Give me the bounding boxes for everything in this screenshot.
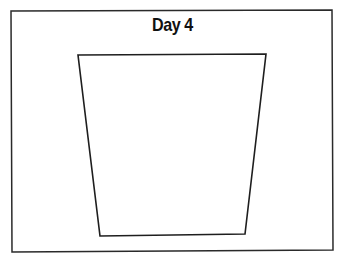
trapezoid-shape	[78, 54, 266, 236]
outer-frame	[11, 10, 333, 252]
diagram-title: Day 4	[26, 14, 319, 36]
diagram-svg	[0, 0, 345, 262]
diagram-canvas: Day 4	[0, 0, 345, 262]
